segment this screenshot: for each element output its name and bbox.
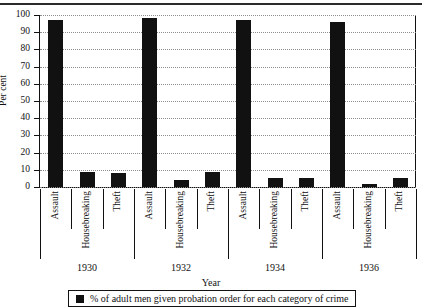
gridline-30 [40,135,416,136]
category-label-1934-housebreaking: Housebreaking [270,191,280,249]
category-label-1932-housebreaking: Housebreaking [176,191,186,249]
category-separator [103,189,104,229]
category-separator [385,189,386,229]
category-separator [291,189,292,229]
y-axis-label: Per cent [0,75,8,106]
year-label-1934: 1934 [245,262,305,273]
category-separator [353,189,354,229]
category-label-1930-theft: Theft [113,191,123,212]
year-label-1930: 1930 [57,262,117,273]
bar-1930-housebreaking [80,172,95,187]
y-tick-label-70: 70 [0,62,30,72]
legend-label: % of adult men given probation order for… [90,293,349,304]
x-axis-label: Year [0,277,422,288]
category-label-1936-housebreaking: Housebreaking [364,191,374,249]
bar-1932-theft [205,172,220,187]
gridline-20 [40,153,416,154]
category-label-1930-assault: Assault [51,191,61,220]
group-separator [416,189,417,259]
gridline-0 [40,187,416,188]
bar-1934-assault [236,20,251,187]
bar-1936-housebreaking [362,184,377,187]
y-tick-label-0: 0 [0,182,30,192]
bar-1932-assault [142,18,157,187]
group-separator [322,189,323,259]
bar-1930-assault [48,20,63,187]
category-label-1934-assault: Assault [239,191,249,220]
bar-1936-theft [393,178,408,187]
y-tick-label-40: 40 [0,113,30,123]
y-tick-label-20: 20 [0,148,30,158]
bar-1934-housebreaking [268,178,283,187]
group-separator [40,189,41,259]
y-tick-label-30: 30 [0,130,30,140]
y-tick-label-100: 100 [0,10,30,20]
gridline-60 [40,84,416,85]
bar-1930-theft [111,173,126,187]
category-label-1934-theft: Theft [301,191,311,212]
category-separator [259,189,260,229]
category-separator [165,189,166,229]
group-separator [134,189,135,259]
gridline-80 [40,49,416,50]
chart-figure: 1009080706050403020100 Per cent AssaultH… [0,0,422,308]
category-label-1932-assault: Assault [145,191,155,220]
category-label-1936-theft: Theft [395,191,405,212]
y-tick-label-80: 80 [0,44,30,54]
legend-swatch-icon [76,295,84,303]
gridline-100 [40,15,416,16]
category-separator [197,189,198,229]
year-label-1936: 1936 [339,262,399,273]
category-label-1932-theft: Theft [207,191,217,212]
year-label-1932: 1932 [151,262,211,273]
category-label-1930-housebreaking: Housebreaking [82,191,92,249]
y-tick-label-10: 10 [0,165,30,175]
gridline-90 [40,32,416,33]
y-tick-label-90: 90 [0,27,30,37]
bar-1936-assault [330,22,345,187]
gridline-70 [40,67,416,68]
gridline-40 [40,118,416,119]
category-separator [71,189,72,229]
category-label-1936-assault: Assault [333,191,343,220]
bar-1934-theft [299,178,314,187]
chart-legend: % of adult men given probation order for… [68,290,356,307]
top-rule-divider [0,3,422,5]
group-separator [228,189,229,259]
gridline-50 [40,101,416,102]
bar-1932-housebreaking [174,180,189,187]
plot-area [40,15,416,187]
gridline-10 [40,170,416,171]
